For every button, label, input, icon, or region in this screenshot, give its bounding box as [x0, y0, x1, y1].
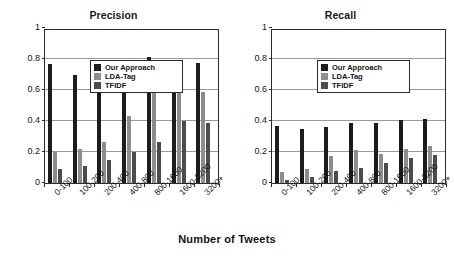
bar-groups-recall: [272, 30, 445, 183]
bar-group: [321, 30, 346, 183]
y-tick-label: 0.8: [254, 53, 267, 63]
legend-label: TFIDF: [105, 82, 126, 90]
legend-swatch-icon: [321, 73, 328, 80]
bar-group: [119, 30, 144, 183]
bar: [132, 152, 136, 183]
plot-area-precision: 00.20.40.60.81 Our ApproachLDA-TagTFIDF: [44, 29, 219, 184]
y-tick-label: 0.4: [254, 115, 267, 125]
bar: [280, 172, 284, 183]
legend-item: TFIDF: [94, 81, 179, 90]
bar: [152, 93, 156, 183]
x-axis-caption: Number of Tweets: [0, 233, 454, 245]
y-tick-label: 0.2: [27, 146, 40, 156]
bar-group: [272, 30, 297, 183]
legend-item: Our Approach: [321, 63, 406, 72]
y-tick-label: 1: [35, 22, 40, 32]
bar: [157, 142, 161, 183]
bar: [48, 64, 52, 183]
legend-precision: Our ApproachLDA-TagTFIDF: [90, 60, 183, 93]
bar-group: [94, 30, 119, 183]
y-tick-mark: [42, 27, 45, 28]
legend-label: LDA-Tag: [332, 73, 363, 81]
legend-swatch-icon: [321, 64, 328, 71]
y-tick-label: 0.2: [254, 146, 267, 156]
chart-panel-precision: Precision 00.20.40.60.81 Our ApproachLDA…: [0, 0, 227, 232]
y-tick-mark: [269, 27, 272, 28]
legend-swatch-icon: [321, 82, 328, 89]
legend-label: Our Approach: [332, 64, 382, 72]
plot-area-recall: 00.20.40.60.81 Our ApproachLDA-TagTFIDF: [271, 29, 446, 184]
legend-label: LDA-Tag: [105, 73, 136, 81]
legend-item: LDA-Tag: [94, 72, 179, 81]
bar-group: [396, 30, 421, 183]
y-tick-label: 0.8: [27, 53, 40, 63]
bar: [73, 75, 77, 183]
bar: [78, 149, 82, 183]
bar: [305, 169, 309, 183]
bar-group: [169, 30, 194, 183]
bar: [329, 156, 333, 183]
x-axis-labels-precision: 0-100100-200200-400400-800800-16001600-3…: [44, 186, 219, 230]
bar-groups-precision: [45, 30, 218, 183]
bar-group: [70, 30, 95, 183]
legend-recall: Our ApproachLDA-TagTFIDF: [317, 60, 410, 93]
x-axis-labels-recall: 0-100100-200200-400400-800800-16001600-3…: [271, 186, 446, 230]
y-tick-label: 1: [262, 22, 267, 32]
legend-label: Our Approach: [105, 64, 155, 72]
bar: [300, 129, 304, 183]
bar-group: [45, 30, 70, 183]
figure-root: Precision 00.20.40.60.81 Our ApproachLDA…: [0, 0, 454, 259]
y-tick-label: 0.4: [27, 115, 40, 125]
legend-item: Our Approach: [94, 63, 179, 72]
legend-swatch-icon: [94, 82, 101, 89]
bar: [53, 152, 57, 183]
legend-label: TFIDF: [332, 82, 353, 90]
legend-swatch-icon: [94, 73, 101, 80]
bar-group: [371, 30, 396, 183]
y-tick-label: 0: [35, 177, 40, 187]
chart-title-recall: Recall: [227, 9, 454, 21]
legend-item: LDA-Tag: [321, 72, 406, 81]
bar-group: [297, 30, 322, 183]
chart-title-precision: Precision: [0, 9, 227, 21]
legend-swatch-icon: [94, 64, 101, 71]
chart-panel-recall: Recall 00.20.40.60.81 Our ApproachLDA-Ta…: [227, 0, 454, 232]
bar: [196, 63, 200, 183]
y-tick-label: 0.6: [27, 84, 40, 94]
y-tick-label: 0.6: [254, 84, 267, 94]
legend-item: TFIDF: [321, 81, 406, 90]
bar: [275, 126, 279, 183]
y-tick-label: 0: [262, 177, 267, 187]
bar-group: [346, 30, 371, 183]
bar-group: [144, 30, 169, 183]
